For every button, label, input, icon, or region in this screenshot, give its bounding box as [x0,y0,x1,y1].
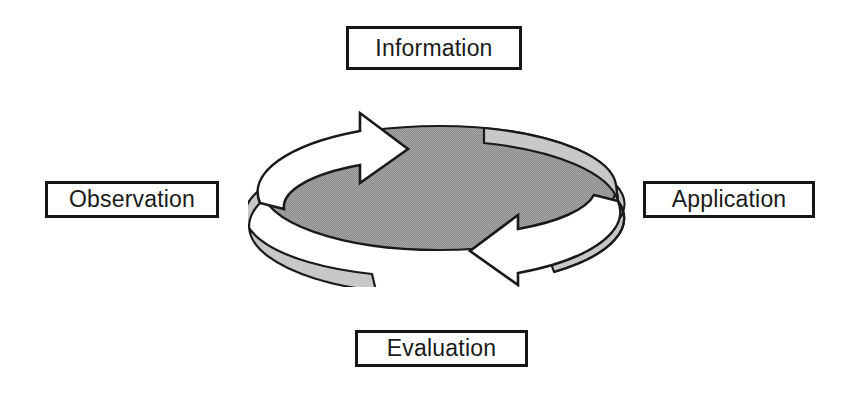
stage-label-evaluation: Evaluation [387,337,496,360]
stage-label-information: Information [375,37,492,60]
stage-label-observation: Observation [69,188,195,211]
stage-box-evaluation[interactable]: Evaluation [355,330,528,367]
cycle-svg [248,105,630,287]
diagram-page: Information Observation Application Eval… [0,0,857,397]
stage-box-observation[interactable]: Observation [45,181,219,218]
stage-label-application: Application [672,188,787,211]
circular-arrow-cycle-graphic [248,105,630,287]
stage-box-information[interactable]: Information [346,26,522,70]
stage-box-application[interactable]: Application [643,181,815,218]
